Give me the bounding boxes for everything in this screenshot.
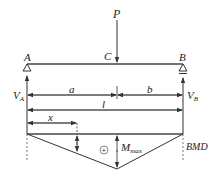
roller-support-b bbox=[179, 64, 187, 71]
dim-a-label: a bbox=[69, 83, 75, 95]
dim-l-label: l bbox=[102, 98, 105, 110]
reaction-a-label: VA bbox=[13, 89, 25, 103]
dim-b-label: b bbox=[147, 83, 153, 95]
load-label: P bbox=[112, 7, 121, 21]
point-c-label: C bbox=[104, 50, 112, 62]
pin-support-a bbox=[23, 64, 31, 71]
dim-x-label: x bbox=[47, 111, 53, 123]
bmd-tag: BMD bbox=[186, 141, 208, 152]
reaction-b-label: VB bbox=[187, 89, 199, 103]
mmax-label: Mmax bbox=[120, 141, 143, 155]
point-b-label: B bbox=[179, 51, 186, 63]
positive-sign: + bbox=[102, 146, 107, 155]
point-a-label: A bbox=[23, 51, 31, 63]
beam-diagram: P A C B VA VB a b l x Mmax + BMD bbox=[0, 0, 221, 177]
